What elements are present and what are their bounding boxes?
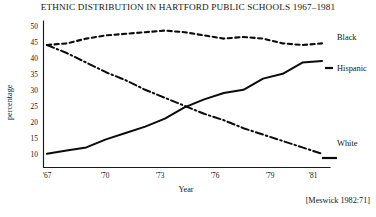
chart-plot: percentage 50 45 40 35 30 25 20 15 10 '6…: [0, 0, 376, 217]
chart-figure: ETHNIC DISTRIBUTION IN HARTFORD PUBLIC S…: [0, 0, 376, 217]
y-tick-label: 30: [31, 86, 39, 95]
x-tick-label: '70: [101, 171, 110, 180]
y-tick-label: 45: [31, 38, 39, 47]
x-tick-label: '67: [43, 171, 52, 180]
y-tick-label: 20: [31, 118, 39, 127]
series-label-white: White: [337, 139, 358, 148]
x-tick-label: '73: [156, 171, 165, 180]
y-tick-label: 10: [31, 150, 39, 159]
y-tick-label: 15: [31, 134, 39, 143]
y-tick-label: 35: [31, 70, 39, 79]
series-line-white: [47, 45, 322, 154]
y-tick-label: 25: [31, 102, 39, 111]
y-tick-label: 50: [31, 22, 39, 31]
series-label-hispanic: Hispanic: [337, 64, 367, 73]
y-axis-label: percentage: [5, 84, 14, 120]
x-axis-label: Year: [178, 185, 193, 194]
x-tick-label: '81: [309, 171, 318, 180]
series-label-black: Black: [337, 33, 357, 42]
source-citation: [Meswick 1982:71]: [306, 196, 371, 205]
series-line-black: [47, 31, 322, 45]
x-tick-label: '76: [211, 171, 220, 180]
x-tick-label: '79: [266, 171, 275, 180]
y-tick-label: 40: [31, 54, 39, 63]
axis-spine: [44, 21, 331, 168]
